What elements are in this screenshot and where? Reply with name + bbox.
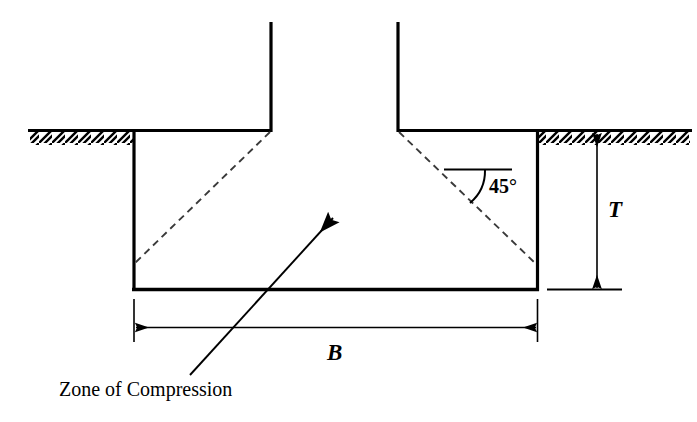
width-label-B: B <box>327 341 342 364</box>
ground-hatch-left <box>28 131 133 146</box>
depth-label-T: T <box>608 198 622 221</box>
zone-of-compression-label: Zone of Compression <box>59 379 232 399</box>
zone-leader-arrow <box>190 218 333 375</box>
ground-hatch-right <box>538 131 692 146</box>
diagram-svg <box>0 0 697 422</box>
column-stem <box>271 22 398 132</box>
figure-canvas: T B 45° Zone of Compression <box>0 0 697 422</box>
angle-label-45-degrees: 45° <box>489 176 517 196</box>
footing-outline <box>132 130 539 291</box>
dimension-B <box>134 299 538 342</box>
